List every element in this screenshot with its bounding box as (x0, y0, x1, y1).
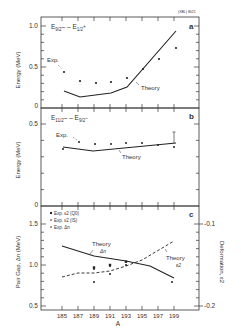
panel-letter-c: c (189, 210, 194, 219)
panel-c-theory-e2-line (62, 241, 174, 277)
ytick-a-05: 0.5 (29, 63, 38, 70)
y-right-tick-labels: -0.1 -0.2 (204, 220, 216, 309)
xtick-199: 199 (169, 313, 180, 319)
ytick-a-10: 1.0 (29, 22, 38, 29)
panel-a-exp-pointer (58, 65, 62, 69)
panel-b-exp-label: Exp. (56, 132, 68, 138)
panel-a-theory-pointer (136, 82, 139, 85)
panel-letter-a: a (189, 22, 194, 31)
xtick-191: 191 (105, 313, 116, 319)
figure-id: (XBL) 8021 (178, 10, 196, 14)
ytick-right-01: -0.1 (204, 220, 216, 227)
xtick-197: 197 (153, 313, 164, 319)
panel-a-frame (41, 17, 199, 108)
x-ticks (62, 17, 174, 310)
legend-marker-is (50, 219, 52, 221)
panel-c-theory-dn-label: Theory (92, 241, 111, 247)
ytick-b-0: 0 (34, 201, 38, 208)
panel-c-theory-e2-label: Theory (166, 255, 185, 261)
xtick-187: 187 (73, 313, 84, 319)
legend-item-dn: Exp. Δn (54, 225, 70, 230)
panel-b-theory-pointer (119, 150, 121, 153)
xtick-193: 193 (121, 313, 132, 319)
y-tick-labels: 0 0.5 1.0 0 0.5 0.5 1.0 1.5 (29, 22, 38, 309)
x-axis-label: A (116, 320, 121, 327)
panel-a-title: E9/2– – E1/2+ (51, 23, 86, 32)
panel-c-exp-dn-points (93, 273, 173, 283)
y-axis-label-right: Deformation, ε2 (219, 241, 225, 284)
panel-c-theory-dn-pointer (90, 250, 93, 254)
xtick-185: 185 (57, 313, 68, 319)
panel-b-theory-label: Theory (122, 154, 141, 160)
panel-a-exp-label: Exp. (47, 57, 59, 63)
panel-c-legend: Exp. ε2 (Q0) Exp. ε2 (IS) Exp. Δn (50, 211, 80, 230)
panel-b-exp-pointer (73, 137, 77, 140)
panel-c-theory-dn-symbol: Δn (99, 248, 106, 254)
ytick-c-05: 0.5 (29, 302, 38, 309)
xtick-195: 195 (137, 313, 148, 319)
y-ticks-a (41, 26, 199, 100)
legend-marker-q0 (50, 212, 52, 214)
panel-b-title: E11/2– – E9/2– (51, 114, 88, 123)
ytick-b-05: 0.5 (29, 120, 38, 127)
legend-marker-dn (50, 226, 52, 228)
panel-letter-b: b (189, 112, 194, 121)
ytick-c-10: 1.0 (29, 261, 38, 268)
y-axis-label-a: Energy (MeV) (15, 51, 21, 88)
ytick-right-02: -0.2 (204, 302, 216, 309)
y-axis-label-c: Pair Gap, Δn (MeV) (15, 236, 21, 288)
panel-c-theory-e2-symbol: ε2 (176, 262, 181, 268)
panel-b-theory-line (63, 143, 176, 151)
panel-b-frame (41, 108, 199, 206)
panel-b-error-bar (173, 132, 176, 143)
panel-c-theory-e2-pointer (165, 249, 167, 252)
panel-a-theory-label: Theory (141, 85, 160, 91)
panel-a-exp-points (63, 47, 177, 84)
ytick-a-0: 0 (34, 102, 38, 109)
xtick-189: 189 (89, 313, 100, 319)
x-tick-labels: 185 187 189 191 193 195 197 199 (57, 313, 180, 319)
legend-item-is: Exp. ε2 (IS) (54, 218, 78, 223)
figure: (XBL) 8021 0 0.5 1.0 0 0.5 0.5 (0, 0, 241, 331)
legend-item-q0: Exp. ε2 (Q0) (54, 211, 80, 216)
y-axis-label-b: Energy (MeV) (15, 141, 21, 178)
ytick-c-15: 1.5 (29, 220, 38, 227)
